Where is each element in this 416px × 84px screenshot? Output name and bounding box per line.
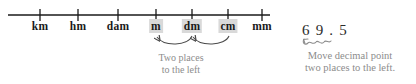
metric-number-line: km hm dam m dm cm mm: [0, 0, 280, 40]
unit-label-m: m: [149, 19, 163, 33]
unit-label-dam: dam: [105, 19, 131, 33]
unit-label-row: km hm dam m dm cm mm: [0, 19, 280, 34]
unit-label-dm: dm: [182, 19, 202, 33]
move-decimal-caption-line-1: Move decimal point: [284, 50, 416, 62]
leftward-curved-arrows: [130, 33, 240, 53]
decimal-shift-panel: 6 9 . 5 Move decimal point two places to…: [284, 22, 416, 82]
decimal-shift-squiggle-icon: [300, 37, 334, 49]
two-places-caption-line-2: to the left: [128, 64, 234, 76]
diagram-canvas: km hm dam m dm cm mm Two places to the l…: [0, 0, 416, 84]
unit-label-hm: hm: [68, 19, 88, 33]
move-decimal-caption: Move decimal point two places to the lef…: [284, 50, 416, 74]
unit-label-mm: mm: [250, 19, 274, 33]
unit-label-cm: cm: [218, 19, 237, 33]
move-decimal-caption-line-2: two places to the left.: [284, 62, 416, 74]
arrow-dm-to-m: [157, 36, 192, 44]
unit-label-km: km: [30, 19, 50, 33]
two-places-caption: Two places to the left: [128, 52, 234, 75]
arrow-cm-to-dm: [193, 36, 229, 44]
two-places-caption-line-1: Two places: [128, 52, 234, 64]
